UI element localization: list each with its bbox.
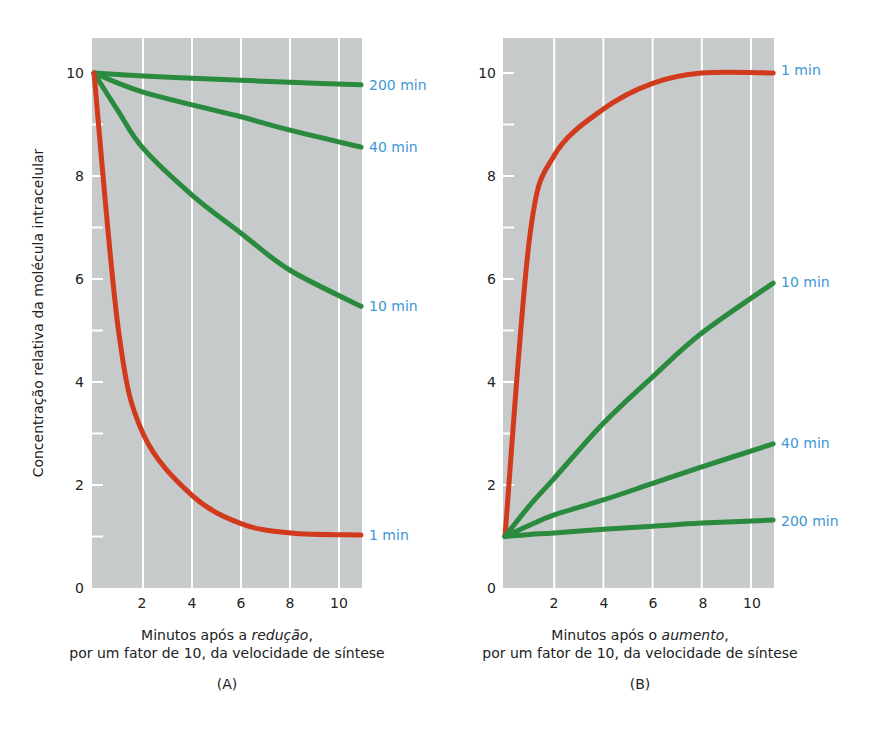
x-tick-label: 4 [188, 595, 197, 611]
x-tick-label: 6 [237, 595, 246, 611]
x-axis-title-line2-a: por um fator de 10, da velocidade de sín… [69, 645, 384, 661]
series-labels-b: 1 min 10 min 40 min 200 min [781, 62, 839, 529]
y-tick-label: 0 [487, 580, 496, 596]
panel-label-a: (A) [217, 676, 238, 692]
y-tick-labels-a: 0 2 4 6 8 10 [66, 65, 84, 596]
x-tick-labels-b: 2 4 6 8 10 [550, 595, 761, 611]
y-tick-label: 6 [75, 271, 84, 287]
series-label-1min: 1 min [781, 62, 821, 78]
series-label-10min: 10 min [781, 274, 830, 290]
series-label-1min: 1 min [369, 527, 409, 543]
x-tick-label: 2 [138, 595, 147, 611]
y-tick-label: 0 [75, 580, 84, 596]
x-tick-label: 10 [330, 595, 348, 611]
series-label-10min: 10 min [369, 298, 418, 314]
y-tick-label: 2 [487, 477, 496, 493]
y-tick-label: 6 [487, 271, 496, 287]
y-axis-title: Concentração relativa da molécula intrac… [30, 148, 46, 477]
y-tick-label: 4 [75, 374, 84, 390]
x-tick-label: 10 [743, 595, 761, 611]
panel-label-b: (B) [630, 676, 651, 692]
x-axis-title-line1-a: Minutos após a redução, [141, 627, 313, 643]
x-tick-label: 4 [600, 595, 609, 611]
y-tick-label: 8 [487, 168, 496, 184]
y-tick-label: 8 [75, 168, 84, 184]
x-tick-label: 8 [699, 595, 708, 611]
y-tick-label: 2 [75, 477, 84, 493]
plot-area-a [92, 38, 362, 588]
x-tick-label: 2 [550, 595, 559, 611]
series-label-40min: 40 min [369, 139, 418, 155]
series-label-200min: 200 min [781, 513, 839, 529]
figure: 0 2 4 6 8 10 2 4 6 8 10 200 min 40 min 1… [0, 0, 874, 731]
y-tick-label: 4 [487, 374, 496, 390]
x-tick-label: 8 [286, 595, 295, 611]
y-tick-label: 10 [66, 65, 84, 81]
x-axis-title-line1-b: Minutos após o aumento, [551, 627, 728, 643]
y-tick-label: 10 [478, 65, 496, 81]
x-axis-title-line2-b: por um fator de 10, da velocidade de sín… [482, 645, 797, 661]
y-tick-labels-b: 0 2 4 6 8 10 [478, 65, 496, 596]
chart-panel-a: 0 2 4 6 8 10 2 4 6 8 10 200 min 40 min 1… [30, 38, 427, 692]
x-tick-labels-a: 2 4 6 8 10 [138, 595, 348, 611]
chart-panel-b: 0 2 4 6 8 10 2 4 6 8 10 1 min 10 min 40 … [478, 38, 838, 692]
series-labels-a: 200 min 40 min 10 min 1 min [369, 77, 427, 543]
x-tick-label: 6 [649, 595, 658, 611]
series-label-40min: 40 min [781, 435, 830, 451]
series-label-200min: 200 min [369, 77, 427, 93]
